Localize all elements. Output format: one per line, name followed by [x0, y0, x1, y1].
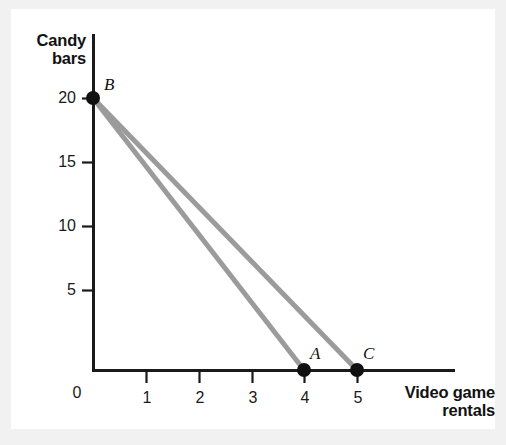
point-label-B: B: [104, 76, 114, 93]
data-point-A[interactable]: [297, 363, 311, 377]
y-tick-label-20: 20: [42, 90, 76, 106]
x-tick-label-0: 0: [66, 385, 88, 401]
x-tick-label-2: 2: [189, 390, 211, 406]
data-point-C[interactable]: [350, 363, 364, 377]
y-axis-ticks: [82, 99, 93, 291]
y-tick-label-5: 5: [42, 282, 76, 298]
point-label-A: A: [310, 345, 320, 362]
x-tick-label-4: 4: [294, 390, 316, 406]
y-tick-label-15: 15: [42, 154, 76, 170]
budget-line-BC: [93, 98, 357, 370]
budget-lines: [93, 98, 357, 370]
y-tick-label-10: 10: [42, 218, 76, 234]
x-tick-label-3: 3: [242, 390, 264, 406]
data-point-B[interactable]: [86, 91, 100, 105]
x-axis-ticks: [147, 371, 358, 383]
x-tick-label-5: 5: [347, 390, 369, 406]
point-label-C: C: [363, 345, 374, 362]
x-tick-label-1: 1: [136, 390, 158, 406]
y-axis-title: Candy bars: [8, 31, 86, 67]
budget-line-BA: [93, 98, 304, 370]
figure-page: Candy bars Video game rentals 20 15 10 5…: [0, 0, 506, 445]
